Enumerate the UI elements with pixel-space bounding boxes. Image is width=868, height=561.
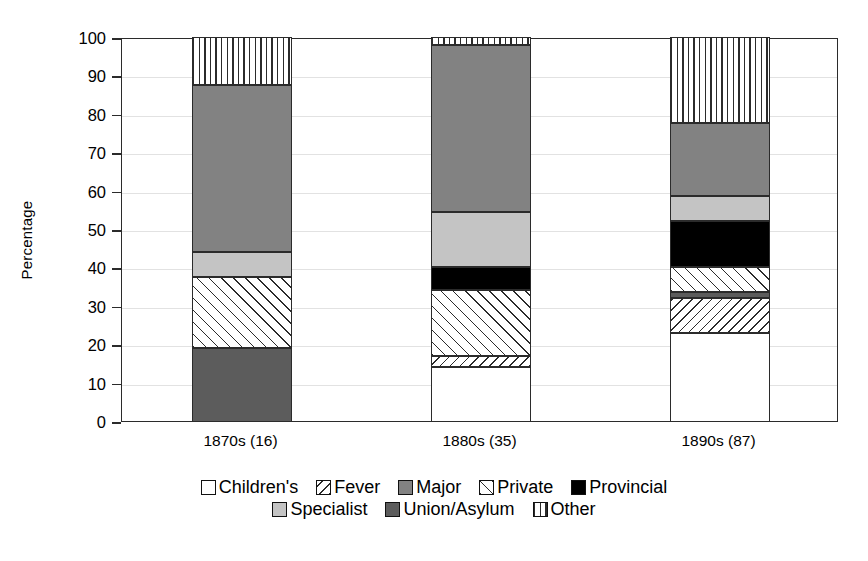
bar-segment[interactable] — [193, 37, 291, 85]
y-axis-tick — [112, 422, 121, 424]
bar-segment[interactable] — [671, 292, 769, 298]
legend-item[interactable]: Private — [479, 478, 553, 496]
legend-label: Children's — [219, 478, 298, 496]
legend-swatch-icon — [201, 480, 216, 495]
legend-item[interactable]: Major — [398, 478, 461, 496]
legend-swatch-icon — [398, 480, 413, 495]
y-axis-tick-label: 50 — [2, 222, 106, 239]
legend-label: Major — [416, 478, 461, 496]
y-axis-tick-label: 100 — [2, 30, 106, 47]
bar-segment[interactable] — [671, 196, 769, 221]
y-axis-tick — [112, 76, 121, 78]
legend-item[interactable]: Fever — [316, 478, 380, 496]
legend-swatch-icon — [272, 502, 287, 517]
bar-segment[interactable] — [671, 267, 769, 292]
legend-row: Children'sFeverMajorPrivateProvincial — [192, 478, 677, 496]
legend-item[interactable]: Other — [533, 500, 596, 518]
legend-label: Fever — [334, 478, 380, 496]
legend: Children'sFeverMajorPrivateProvincialSpe… — [0, 478, 868, 518]
legend-label: Provincial — [589, 478, 667, 496]
y-axis-tick — [112, 192, 121, 194]
legend-item[interactable]: Union/Asylum — [385, 500, 514, 518]
bar-segment[interactable] — [432, 356, 530, 368]
y-axis-tick-label: 60 — [2, 183, 106, 200]
bar-segment[interactable] — [432, 267, 530, 290]
legend-label: Private — [497, 478, 553, 496]
x-axis-tick-label: 1890s (87) — [609, 432, 829, 450]
y-axis-tick — [112, 230, 121, 232]
bar-segment[interactable] — [432, 290, 530, 355]
legend-swatch-icon — [533, 502, 548, 517]
y-axis-tick-label: 30 — [2, 299, 106, 316]
x-axis-tick-label: 1880s (35) — [370, 432, 590, 450]
y-axis-tick — [112, 268, 121, 270]
y-axis-tick — [112, 345, 121, 347]
bar-segment[interactable] — [193, 252, 291, 277]
legend-label: Union/Asylum — [403, 500, 514, 518]
stacked-bar[interactable] — [431, 37, 531, 421]
bar-segment[interactable] — [432, 367, 530, 421]
legend-swatch-icon — [316, 480, 331, 495]
bar-segment[interactable] — [432, 212, 530, 268]
legend-label: Other — [551, 500, 596, 518]
legend-item[interactable]: Specialist — [272, 500, 367, 518]
y-axis-tick-label: 0 — [2, 414, 106, 431]
y-axis-tick-label: 70 — [2, 145, 106, 162]
stacked-bar[interactable] — [670, 37, 770, 421]
bar-segment[interactable] — [671, 37, 769, 123]
legend-item[interactable]: Children's — [201, 478, 298, 496]
y-axis-tick-label: 80 — [2, 107, 106, 124]
legend-label: Specialist — [290, 500, 367, 518]
bar-segment[interactable] — [432, 45, 530, 212]
bar-segment[interactable] — [193, 85, 291, 252]
y-axis-tick — [112, 38, 121, 40]
legend-item[interactable]: Provincial — [571, 478, 667, 496]
y-axis-tick-label: 10 — [2, 375, 106, 392]
legend-swatch-icon — [479, 480, 494, 495]
bar-segment[interactable] — [193, 348, 291, 421]
y-axis-tick — [112, 307, 121, 309]
y-axis-tick — [112, 115, 121, 117]
y-axis-tick-label: 90 — [2, 68, 106, 85]
bar-segment[interactable] — [432, 37, 530, 45]
legend-swatch-icon — [571, 480, 586, 495]
bar-segment[interactable] — [671, 333, 769, 421]
legend-swatch-icon — [385, 502, 400, 517]
y-axis-tick — [112, 384, 121, 386]
y-axis-tick — [112, 153, 121, 155]
bar-segment[interactable] — [671, 123, 769, 196]
bar-segment[interactable] — [671, 221, 769, 267]
stacked-bar-chart: Percentage 0102030405060708090100 1870s … — [0, 0, 868, 561]
legend-row: SpecialistUnion/AsylumOther — [263, 500, 604, 518]
bar-segment[interactable] — [671, 298, 769, 333]
stacked-bar[interactable] — [192, 37, 292, 421]
plot-area — [121, 38, 838, 422]
y-axis-tick-label: 20 — [2, 337, 106, 354]
bar-segment[interactable] — [193, 277, 291, 348]
x-axis-tick-label: 1870s (16) — [131, 432, 351, 450]
y-axis-tick-label: 40 — [2, 260, 106, 277]
